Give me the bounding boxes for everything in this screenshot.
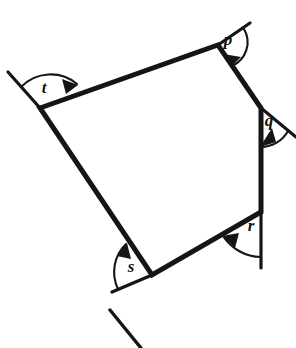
figure-background (0, 0, 296, 348)
geometry-canvas: p q r s t (0, 0, 296, 348)
angle-label-r: r (248, 216, 255, 235)
angle-label-q: q (265, 111, 274, 130)
angle-label-s: s (127, 257, 135, 276)
angle-label-p: p (222, 30, 233, 49)
geometry-figure: p q r s t (0, 0, 296, 348)
